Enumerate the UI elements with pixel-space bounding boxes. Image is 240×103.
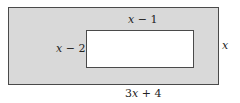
label-rest: − 1 bbox=[134, 13, 157, 26]
label-rest: − 2 bbox=[62, 42, 85, 55]
inner-rectangle bbox=[86, 30, 194, 68]
inner-width-label: x − 1 bbox=[128, 14, 157, 26]
outer-width-label: 3x + 4 bbox=[125, 88, 161, 100]
variable-x: x bbox=[222, 39, 228, 52]
label-rest: + 4 bbox=[138, 87, 161, 100]
outer-height-label: x bbox=[222, 40, 228, 52]
label-prefix: 3 bbox=[125, 87, 132, 100]
inner-height-label: x − 2 bbox=[56, 43, 85, 55]
